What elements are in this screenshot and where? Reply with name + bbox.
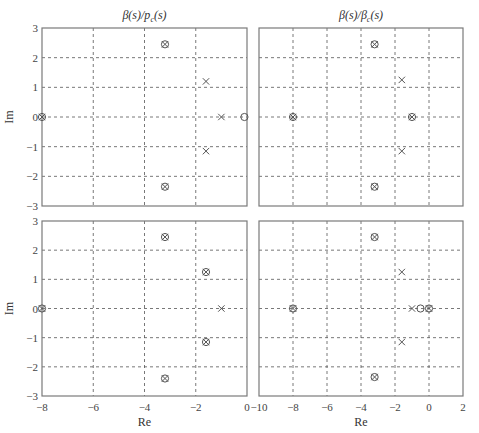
x-tick-label: 2 <box>460 401 466 413</box>
pole-marker-icon <box>399 148 405 154</box>
panel-bottom-right: −10−8−6−4−202Re <box>250 221 465 429</box>
x-tick-label: −4 <box>355 401 367 413</box>
y-tick-label: 1 <box>33 273 39 285</box>
panel-top-right: β(s)/βc(s) <box>259 8 463 206</box>
x-tick-label: −10 <box>250 401 268 413</box>
x-tick-label: −6 <box>321 401 333 413</box>
pole-zero-marker-icon <box>202 268 209 275</box>
panel-title: β(s)/βc(s) <box>338 8 383 24</box>
pole-zero-marker-icon <box>161 233 168 240</box>
y-axis-label: Im <box>2 301 16 315</box>
y-tick-label: 0 <box>33 303 39 315</box>
pole-zero-marker-icon <box>161 375 168 382</box>
pole-zero-figure: 3210−1−2−3Imβ(s)/pc(s)β(s)/βc(s)3210−1−2… <box>0 0 479 433</box>
x-tick-label: −2 <box>389 401 401 413</box>
x-tick-label: −6 <box>87 401 99 413</box>
y-tick-label: 1 <box>33 81 39 93</box>
panel-title: β(s)/pc(s) <box>121 8 166 24</box>
pole-marker-icon <box>399 269 405 275</box>
pole-marker-icon <box>399 339 405 345</box>
x-tick-label: −2 <box>190 401 202 413</box>
y-axis-label: Im <box>2 110 16 124</box>
pole-marker-icon <box>399 77 405 83</box>
y-tick-label: 2 <box>33 244 39 256</box>
y-tick-label: 0 <box>33 111 39 123</box>
pole-marker-icon <box>203 148 209 154</box>
y-tick-label: −3 <box>26 200 38 212</box>
y-tick-label: 2 <box>33 52 39 64</box>
x-tick-label: 0 <box>244 401 250 413</box>
y-tick-label: 3 <box>33 22 39 34</box>
x-axis-label: Re <box>138 415 151 429</box>
pole-zero-marker-icon <box>371 41 378 48</box>
pole-marker-icon <box>203 78 209 84</box>
pole-zero-marker-icon <box>371 373 378 380</box>
pole-zero-marker-icon <box>202 338 209 345</box>
y-tick-label: 3 <box>33 215 39 227</box>
x-tick-label: −8 <box>287 401 299 413</box>
pole-zero-marker-icon <box>371 233 378 240</box>
pole-zero-marker-icon <box>161 183 168 190</box>
panel-top-left: 3210−1−2−3Imβ(s)/pc(s) <box>2 8 248 212</box>
y-tick-label: −1 <box>26 141 38 153</box>
panel-bottom-left: 3210−1−2−3−8−6−4−20ImRe <box>2 215 250 429</box>
y-tick-label: −1 <box>26 332 38 344</box>
x-tick-label: −8 <box>36 401 48 413</box>
x-tick-label: 0 <box>426 401 432 413</box>
pole-zero-marker-icon <box>371 183 378 190</box>
y-tick-label: −2 <box>26 170 38 182</box>
x-tick-label: −4 <box>139 401 151 413</box>
x-axis-label: Re <box>354 415 367 429</box>
pole-zero-marker-icon <box>161 41 168 48</box>
y-tick-label: −2 <box>26 361 38 373</box>
